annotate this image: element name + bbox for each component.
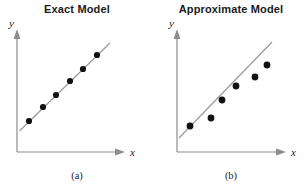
data-point — [264, 62, 271, 69]
plot-approximate-model: y x — [154, 0, 308, 184]
data-point — [219, 97, 226, 104]
panel-caption-b: (b) — [154, 170, 308, 181]
data-point — [26, 118, 32, 124]
x-axis-label-approximate: x — [290, 146, 296, 158]
x-axis-arrow-icon — [115, 149, 125, 156]
data-point — [40, 104, 46, 110]
data-point — [233, 83, 240, 90]
y-axis-exact — [14, 29, 21, 152]
panel-caption-a: (a) — [0, 170, 154, 181]
data-point — [208, 115, 215, 122]
data-point — [67, 78, 73, 84]
data-point — [80, 66, 86, 72]
x-axis-label-exact: x — [129, 146, 135, 158]
data-point — [252, 74, 259, 81]
y-axis-label-exact: y — [8, 17, 14, 29]
x-axis-arrow-icon — [276, 149, 286, 156]
y-axis-arrow-icon — [14, 29, 21, 39]
data-point — [187, 123, 194, 130]
best-fit-line-approximate — [179, 42, 272, 138]
panel-approximate-model: Approximate Model — [154, 0, 308, 184]
plot-exact-model: y x — [0, 0, 154, 184]
panel-exact-model: Exact Model y — [0, 0, 154, 184]
x-axis-approximate — [177, 149, 286, 156]
y-axis-approximate — [174, 29, 181, 152]
data-point — [94, 52, 100, 58]
data-point — [53, 92, 59, 98]
x-axis-exact — [17, 149, 125, 156]
data-points-approximate — [187, 62, 271, 130]
y-axis-arrow-icon — [174, 29, 181, 39]
figure-container: Exact Model y — [0, 0, 308, 184]
y-axis-label-approximate: y — [168, 17, 174, 29]
